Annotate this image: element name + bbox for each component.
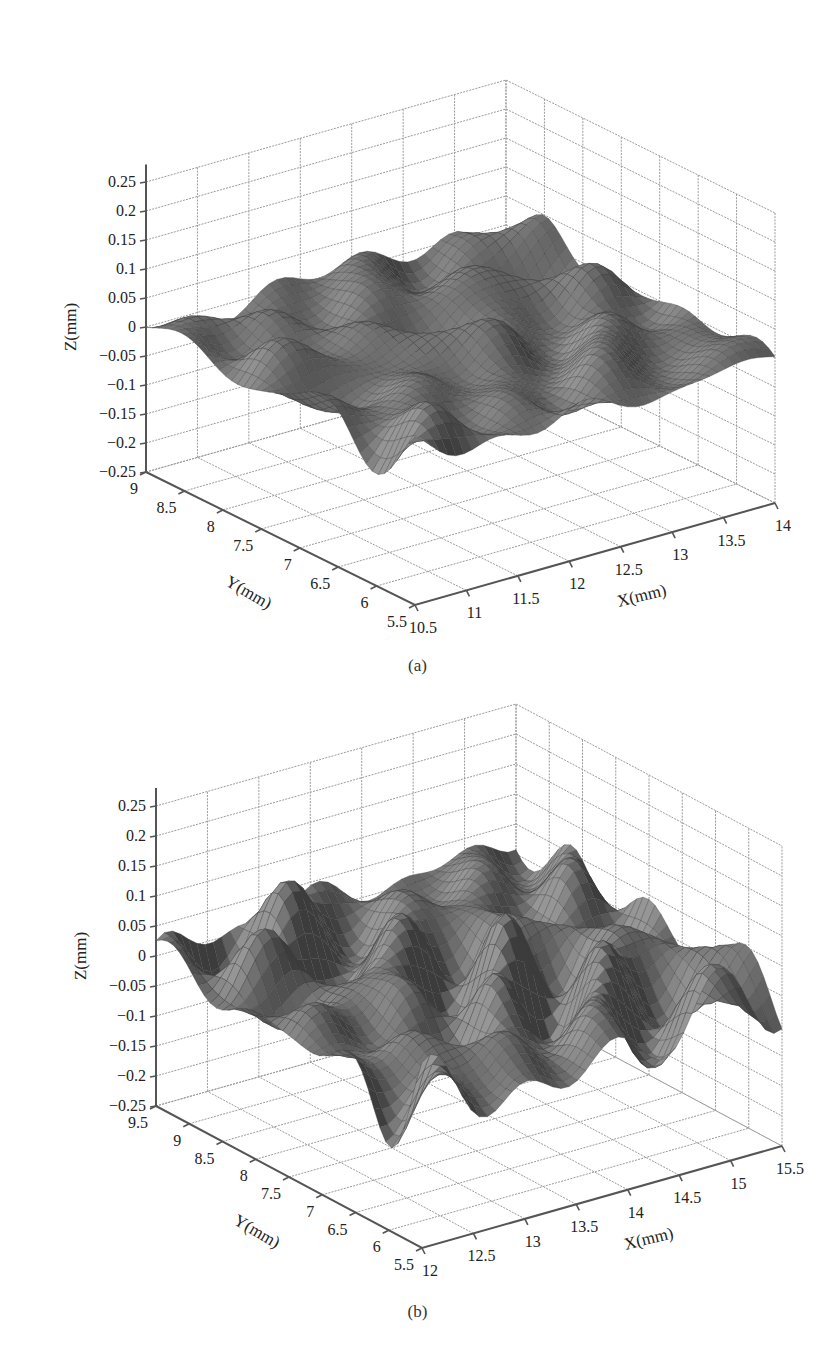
surface-mesh [146, 215, 775, 475]
z-tick-label: 0 [128, 318, 136, 335]
caption-b: (b) [0, 1302, 835, 1322]
y-tick-label: 7 [306, 1203, 314, 1220]
z-tick-label: 0.1 [126, 887, 146, 904]
y-tick-label: 6 [361, 594, 369, 611]
surface-plot-a: 0.250.20.150.10.050−0.05−0.1−0.15−0.2−0.… [0, 0, 835, 690]
z-tick-label: 0.25 [108, 173, 136, 190]
x-axis-title: X(mm) [622, 1223, 675, 1254]
z-tick-label: 0.15 [108, 231, 136, 248]
y-tick-label: 9.5 [128, 1114, 148, 1131]
x-tick-label: 14 [775, 517, 791, 534]
x-tick-label: 12 [569, 575, 585, 592]
y-tick-label: 5.5 [394, 1256, 414, 1273]
surface-mesh [156, 845, 782, 1148]
surface-plot-b-canvas: 0.250.20.150.10.050−0.05−0.1−0.15−0.2−0.… [0, 690, 835, 1372]
z-tick-label: 0.2 [126, 827, 146, 844]
z-tick-label: 0.2 [116, 202, 136, 219]
y-axis-title: Y(mm) [222, 572, 275, 613]
y-tick-label: 8.5 [195, 1150, 215, 1167]
y-tick-label: 8 [207, 518, 215, 535]
x-tick-label: 15 [731, 1175, 747, 1192]
y-tick-label: 8 [240, 1167, 248, 1184]
x-tick-label: 14 [628, 1204, 644, 1221]
x-tick-label: 12 [422, 1262, 438, 1279]
x-axis-title: X(mm) [615, 580, 668, 611]
z-axis-title: Z(mm) [71, 932, 90, 980]
z-tick-label: −0.1 [117, 1007, 146, 1024]
z-tick-label: 0.1 [116, 260, 136, 277]
z-tick-label: −0.1 [107, 376, 136, 393]
caption-a: (a) [0, 656, 835, 676]
y-tick-label: 6 [373, 1238, 381, 1255]
y-axis-title: Y(mm) [231, 1211, 284, 1252]
y-tick-label: 8.5 [156, 499, 176, 516]
z-tick-label: −0.15 [99, 405, 136, 422]
y-tick-label: 9 [130, 480, 138, 497]
x-tick-label: 11.5 [512, 590, 539, 607]
z-tick-label: 0.05 [108, 289, 136, 306]
x-tick-label: 13.5 [718, 532, 746, 549]
x-tick-label: 15.5 [776, 1160, 804, 1177]
z-tick-label: 0 [138, 947, 146, 964]
y-tick-label: 9 [173, 1132, 181, 1149]
x-tick-label: 12.5 [615, 561, 643, 578]
z-tick-label: −0.05 [109, 977, 146, 994]
surface-plot-a-canvas: 0.250.20.150.10.050−0.05−0.1−0.15−0.2−0.… [0, 0, 835, 690]
z-tick-label: 0.15 [118, 857, 146, 874]
z-tick-label: −0.2 [107, 434, 136, 451]
x-tick-label: 12.5 [467, 1247, 495, 1264]
z-tick-label: 0.25 [118, 797, 146, 814]
z-axis-title: Z(mm) [61, 303, 80, 351]
y-tick-label: 7.5 [261, 1185, 281, 1202]
y-tick-label: 5.5 [387, 613, 407, 630]
surface-plot-b: 0.250.20.150.10.050−0.05−0.1−0.15−0.2−0.… [0, 690, 835, 1372]
z-tick-label: −0.2 [117, 1067, 146, 1084]
z-tick-label: −0.15 [109, 1037, 146, 1054]
y-tick-label: 6.5 [310, 575, 330, 592]
z-tick-label: −0.05 [99, 347, 136, 364]
x-tick-label: 13 [525, 1233, 541, 1250]
y-tick-label: 7 [284, 556, 292, 573]
z-tick-label: −0.25 [99, 463, 136, 480]
x-tick-label: 13 [672, 546, 688, 563]
x-tick-label: 11 [467, 604, 482, 621]
y-tick-label: 6.5 [328, 1221, 348, 1238]
x-tick-label: 14.5 [673, 1189, 701, 1206]
y-tick-label: 7.5 [233, 537, 253, 554]
z-tick-label: −0.25 [109, 1097, 146, 1114]
x-tick-label: 13.5 [570, 1218, 598, 1235]
z-tick-label: 0.05 [118, 917, 146, 934]
x-tick-label: 10.5 [409, 619, 437, 636]
